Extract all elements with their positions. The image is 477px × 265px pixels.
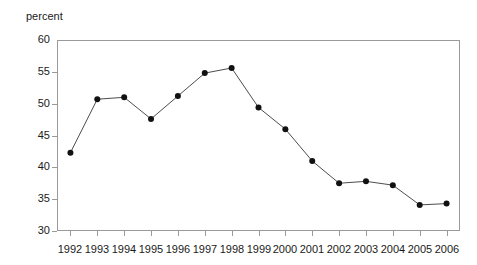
x-axis-tick-mark: [285, 231, 286, 236]
data-point-marker: [336, 180, 342, 186]
x-axis-tick-mark: [151, 231, 152, 236]
x-axis-tick-mark: [97, 231, 98, 236]
x-axis-tick-mark: [259, 231, 260, 236]
y-axis-tick-label: 30: [6, 225, 50, 236]
data-point-marker: [256, 104, 262, 110]
y-axis-tick-label: 60: [6, 34, 50, 45]
data-point-marker: [148, 116, 154, 122]
data-point-marker: [363, 178, 369, 184]
data-point-marker: [229, 65, 235, 71]
y-axis-tick-label: 40: [6, 161, 50, 172]
x-axis-tick-mark: [232, 231, 233, 236]
y-axis-tick-label: 35: [6, 193, 50, 204]
x-axis-tick-mark: [205, 231, 206, 236]
x-axis-tick-mark: [124, 231, 125, 236]
series-markers-percent: [67, 65, 449, 208]
y-axis-tick-label: 45: [6, 130, 50, 141]
y-axis-title: percent: [26, 10, 63, 23]
data-point-marker: [175, 93, 181, 99]
plot-series-canvas: [57, 40, 460, 231]
data-point-marker: [390, 182, 396, 188]
y-axis-tick-label: 55: [6, 66, 50, 77]
x-axis-tick-label: 2006: [427, 243, 467, 255]
x-axis-tick-mark: [70, 231, 71, 236]
y-axis-tick-label: 50: [6, 98, 50, 109]
data-point-marker: [94, 96, 100, 102]
x-axis-tick-mark: [339, 231, 340, 236]
data-point-marker: [444, 201, 450, 207]
x-axis-tick-mark: [393, 231, 394, 236]
x-axis-tick-mark: [366, 231, 367, 236]
x-axis-tick-mark: [420, 231, 421, 236]
line-chart-figure: percent 30354045505560 19921993199419951…: [0, 0, 477, 265]
x-axis-tick-mark: [178, 231, 179, 236]
data-point-marker: [417, 202, 423, 208]
data-point-marker: [282, 126, 288, 132]
x-axis-tick-mark: [312, 231, 313, 236]
data-point-marker: [121, 94, 127, 100]
y-axis-tick-mark: [52, 231, 57, 232]
x-axis-tick-mark: [447, 231, 448, 236]
data-point-marker: [67, 150, 73, 156]
data-point-marker: [309, 158, 315, 164]
data-point-marker: [202, 70, 208, 76]
